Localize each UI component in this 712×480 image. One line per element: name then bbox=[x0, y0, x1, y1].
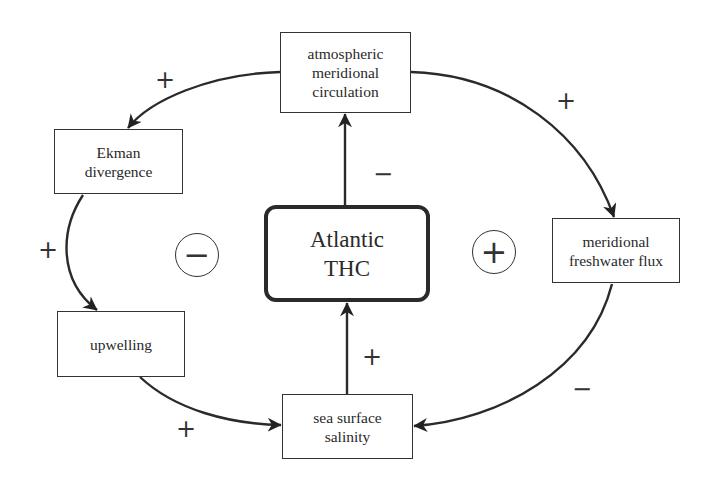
node-atmospheric-meridional-circulation: atmospheric meridional circulation bbox=[280, 32, 411, 113]
sign-thc-to-atmospheric: − bbox=[373, 162, 393, 186]
edge-atmospheric-to-freshwater bbox=[411, 72, 614, 217]
minus-icon: − bbox=[184, 239, 211, 271]
sign-upwelling-to-salinity: + bbox=[176, 417, 196, 441]
edge-ekman-to-upwelling bbox=[67, 195, 97, 310]
node-label-line: Atlantic bbox=[310, 225, 384, 254]
node-atlantic-thc: Atlantic THC bbox=[264, 205, 430, 302]
plus-icon: + bbox=[481, 236, 508, 268]
edge-upwelling-to-salinity bbox=[140, 377, 281, 425]
node-label-line: sea surface bbox=[313, 408, 381, 427]
sign-atmospheric-to-freshwater: + bbox=[556, 89, 576, 113]
node-label-line: meridional bbox=[312, 63, 379, 82]
sign-atmospheric-to-ekman: + bbox=[155, 68, 175, 92]
node-upwelling: upwelling bbox=[57, 311, 185, 377]
sign-freshwater-to-salinity: − bbox=[572, 377, 592, 401]
loop-negative-polarity: − bbox=[175, 233, 219, 277]
sign-ekman-to-upwelling: + bbox=[38, 238, 58, 262]
node-label-line: atmospheric bbox=[308, 44, 384, 63]
node-ekman-divergence: Ekman divergence bbox=[54, 129, 183, 194]
node-label-line: salinity bbox=[325, 427, 371, 446]
node-label-line: divergence bbox=[85, 162, 153, 181]
node-label-line: THC bbox=[324, 254, 370, 283]
node-meridional-freshwater-flux: meridional freshwater flux bbox=[552, 218, 680, 283]
sign-salinity-to-thc: + bbox=[362, 345, 382, 369]
edge-freshwater-to-salinity bbox=[414, 284, 612, 426]
edge-atmospheric-to-ekman bbox=[128, 72, 280, 128]
node-label-line: meridional bbox=[582, 232, 649, 251]
node-label-line: upwelling bbox=[90, 335, 152, 354]
node-sea-surface-salinity: sea surface salinity bbox=[282, 394, 413, 459]
node-label-line: circulation bbox=[312, 82, 378, 101]
node-label-line: freshwater flux bbox=[569, 251, 663, 270]
loop-positive-polarity: + bbox=[472, 230, 516, 274]
node-label-line: Ekman bbox=[97, 143, 141, 162]
